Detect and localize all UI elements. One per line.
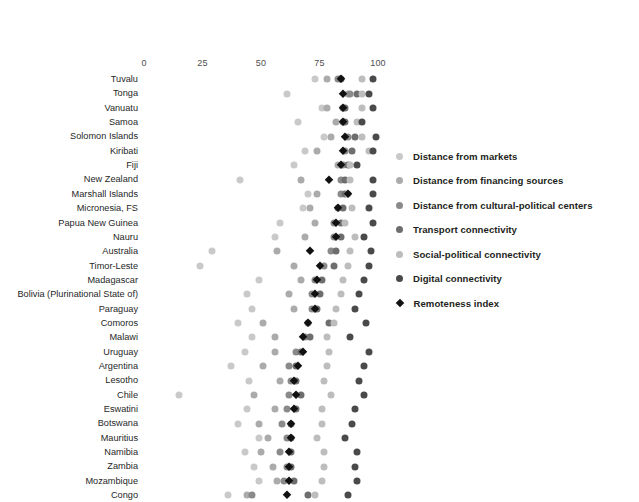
data-point: [360, 391, 367, 398]
data-point: [276, 449, 283, 456]
data-point: [246, 377, 253, 384]
legend-item-7[interactable]: Remoteness index: [396, 291, 636, 316]
data-point: [328, 133, 335, 140]
data-point: [323, 363, 330, 370]
data-point: [337, 291, 344, 298]
row-label: Chile: [0, 388, 138, 402]
data-point: [363, 320, 370, 327]
data-point: [260, 363, 267, 370]
row-label: Samoa: [0, 115, 138, 129]
data-point: [225, 492, 232, 499]
data-point: [346, 176, 353, 183]
chart-legend: Distance from marketsDistance from finan…: [396, 144, 636, 316]
data-point: [358, 119, 365, 126]
data-point: [314, 434, 321, 441]
data-point: [307, 205, 314, 212]
row-label: Timor-Leste: [0, 259, 138, 273]
circle-marker-icon: [396, 251, 403, 258]
row-label: Nauru: [0, 230, 138, 244]
data-point: [279, 420, 286, 427]
row-label: Papua New Guinea: [0, 216, 138, 230]
row-label: Lesotho: [0, 373, 138, 387]
data-point: [321, 449, 328, 456]
chart-row: Comoros: [144, 316, 378, 330]
data-point: [332, 305, 339, 312]
chart-row: Mauritius: [144, 431, 378, 445]
chart-row: Vanuatu: [144, 101, 378, 115]
data-point: [248, 334, 255, 341]
chart-row: Samoa: [144, 115, 378, 129]
data-point: [314, 190, 321, 197]
legend-item-2[interactable]: Distance from financing sources: [396, 169, 636, 194]
data-point: [365, 262, 372, 269]
circle-marker-icon: [396, 153, 403, 160]
data-point: [283, 90, 290, 97]
legend-item-1[interactable]: Distance from markets: [396, 144, 636, 169]
data-point: [358, 76, 365, 83]
data-point: [286, 363, 293, 370]
x-tick-75: 75: [314, 58, 324, 68]
row-label: Marshall Islands: [0, 187, 138, 201]
row-label: Mauritius: [0, 431, 138, 445]
chart-row: Solomon Islands: [144, 129, 378, 143]
data-point: [287, 419, 296, 428]
data-point: [318, 477, 325, 484]
legend-label: Distance from markets: [413, 151, 518, 162]
plot-area: 0255075100 TuvaluTongaVanuatuSamoaSolomo…: [144, 40, 378, 466]
data-point: [370, 104, 377, 111]
data-point: [227, 363, 234, 370]
data-point: [255, 434, 262, 441]
data-point: [360, 363, 367, 370]
x-tick-100: 100: [370, 58, 386, 68]
chart-row: Papua New Guinea: [144, 216, 378, 230]
data-point: [297, 277, 304, 284]
legend-label: Remoteness index: [414, 298, 500, 309]
chart-row: Marshall Islands: [144, 187, 378, 201]
data-point: [356, 291, 363, 298]
data-point: [323, 334, 330, 341]
data-point: [272, 234, 279, 241]
data-point: [367, 248, 374, 255]
data-point: [303, 319, 312, 328]
legend-item-6[interactable]: Digital connectivity: [396, 267, 636, 292]
row-label: Bolivia (Plurinational State of): [0, 287, 138, 301]
data-point: [258, 449, 265, 456]
chart-row: Zambia: [144, 459, 378, 473]
chart-row: Tonga: [144, 86, 378, 100]
legend-item-3[interactable]: Distance from cultural-political centers: [396, 193, 636, 218]
chart-row: Namibia: [144, 445, 378, 459]
data-point: [234, 320, 241, 327]
data-point: [243, 291, 250, 298]
legend-label: Social-political connectivity: [413, 249, 541, 260]
data-point: [321, 463, 328, 470]
data-point: [282, 491, 291, 500]
chart-row: Nauru: [144, 230, 378, 244]
data-point: [370, 219, 377, 226]
data-point: [325, 348, 332, 355]
legend-item-5[interactable]: Social-political connectivity: [396, 242, 636, 267]
x-tick-50: 50: [256, 58, 266, 68]
data-point: [370, 176, 377, 183]
chart-row: Uruguay: [144, 345, 378, 359]
data-point: [302, 147, 309, 154]
legend-label: Distance from cultural-political centers: [413, 200, 593, 211]
row-label: Namibia: [0, 445, 138, 459]
data-point: [323, 104, 330, 111]
data-point: [318, 420, 325, 427]
data-point: [290, 162, 297, 169]
data-point: [370, 147, 377, 154]
chart-row: Chile: [144, 388, 378, 402]
legend-item-4[interactable]: Transport connectivity: [396, 218, 636, 243]
x-tick-25: 25: [197, 58, 207, 68]
data-point: [304, 492, 311, 499]
data-point: [286, 291, 293, 298]
chart-row: Eswatini: [144, 402, 378, 416]
data-point: [358, 133, 365, 140]
row-label: Comoros: [0, 316, 138, 330]
chart-row: Lesotho: [144, 373, 378, 387]
chart-row: Paraguay: [144, 302, 378, 316]
data-point: [344, 262, 351, 269]
data-point: [321, 377, 328, 384]
row-label: Madagascar: [0, 273, 138, 287]
data-point: [351, 463, 358, 470]
